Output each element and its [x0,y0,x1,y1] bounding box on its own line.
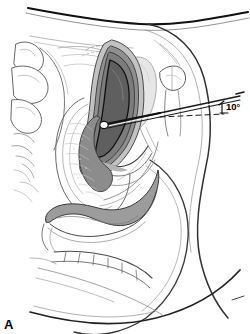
anatomical-illustration: 10° [0,0,250,334]
angle-label: 10° [226,101,241,112]
figure-panel: 10° A [0,0,250,334]
panel-label: A [4,318,13,331]
